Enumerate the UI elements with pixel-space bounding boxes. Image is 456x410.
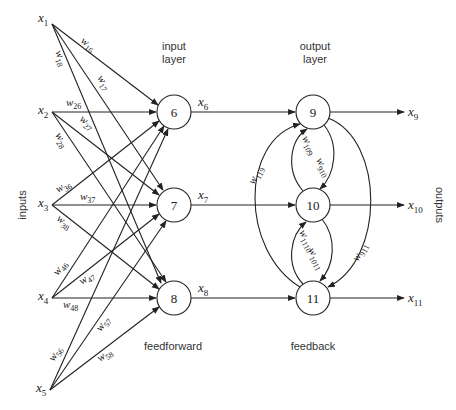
input-x5: x5 [35,380,47,398]
weight-w18: w18 [50,48,70,68]
hidden-output-labels: x6 x7 x8 [197,94,209,298]
output-variable-labels: x9 x10 x11 [407,104,423,308]
node-9: 9 [296,95,330,129]
weight-w1011: w1011 [304,245,328,272]
label-x8: x8 [197,280,209,298]
label-x9: x9 [407,104,419,122]
layer-connections [191,112,295,298]
input-x2: x2 [37,102,48,120]
svg-text:10: 10 [307,198,320,213]
weight-w57: w57 [93,314,114,335]
node-10: 10 [296,188,330,222]
weight-w36: w36 [53,177,74,198]
neural-network-diagram: inputs outputs input layer output layer … [0,0,456,410]
input-x1: x1 [37,10,48,28]
svg-text:11: 11 [307,291,320,306]
label-x6: x6 [197,94,209,112]
weight-w109: w109 [298,133,320,157]
node-8: 8 [157,281,191,315]
weight-w46: w46 [50,258,71,279]
label-x10: x10 [407,197,423,215]
input-x4: x4 [37,288,49,306]
weight-w16: w16 [77,34,98,55]
weight-w28: w28 [51,130,72,151]
node-11: 11 [296,281,330,315]
inputs-label: inputs [16,190,28,220]
weight-w37: w37 [80,190,95,205]
input-layer-label-line2: layer [162,53,186,65]
weight-w119: w119 [245,163,267,187]
feedforward-edges [50,24,168,390]
svg-text:6: 6 [171,105,178,120]
label-x11: x11 [407,290,422,308]
weight-w38: w38 [53,212,74,233]
outputs-label: outputs [434,187,446,224]
output-layer-label-line1: output [300,40,331,52]
weight-w26: w26 [66,96,81,111]
svg-text:7: 7 [171,198,178,213]
weight-w910: w910 [312,155,334,179]
input-x3: x3 [37,195,49,213]
node-6: 6 [157,95,191,129]
node-7: 7 [157,188,191,222]
svg-text:8: 8 [171,291,178,306]
input-layer-label-line1: input [162,40,186,52]
output-layer-label-line2: layer [303,53,327,65]
input-variable-labels: x1 x2 x3 x4 x5 [35,10,49,398]
label-x7: x7 [197,187,209,205]
feedback-label: feedback [291,340,336,352]
weight-w911: w911 [349,240,371,264]
feedforward-weight-labels: w16 w17 w18 w26 w27 w28 w36 w37 w38 w46 … [45,34,115,366]
weight-w48: w48 [63,298,78,313]
feedforward-label: feedforward [144,340,202,352]
output-arrows [330,112,404,298]
svg-text:9: 9 [310,105,317,120]
